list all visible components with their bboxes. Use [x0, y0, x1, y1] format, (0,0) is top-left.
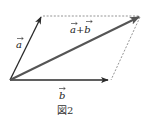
svg-text:a: a: [16, 39, 22, 50]
dashed-edge-right: [111, 17, 140, 80]
vector-a-arrow: [10, 17, 41, 80]
vector-addition-diagram: a a+b b 図2: [0, 0, 147, 121]
svg-text:b: b: [59, 90, 65, 101]
label-a: a: [16, 37, 23, 50]
label-a-plus-b: a+b: [70, 20, 92, 35]
svg-text:a+b: a+b: [70, 24, 91, 35]
figure-caption: 図2: [57, 105, 73, 116]
label-b: b: [59, 87, 65, 101]
